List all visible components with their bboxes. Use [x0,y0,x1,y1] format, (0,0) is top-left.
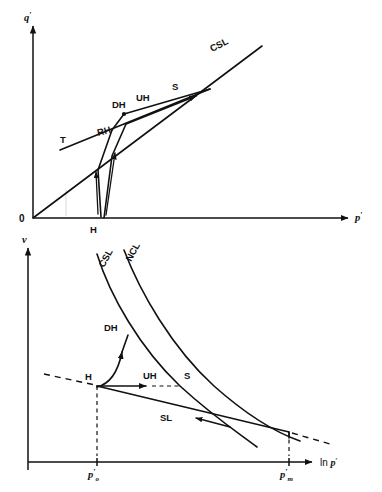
top-origin-label: 0 [19,213,25,224]
bottom-drained-path [97,352,122,387]
bottom-label-UH: UH [143,370,157,381]
bottom-y-axis-label: v [22,234,27,245]
figure-root: q′ p′ 0 T RH DH [0,0,382,492]
top-label-UH: UH [136,92,150,103]
bottom-label-SL: SL [160,412,172,423]
soil-mechanics-figure: q′ p′ 0 T RH DH [0,0,382,492]
top-y-axis-label: q′ [24,11,32,23]
bottom-x-axis-label: ln p′ [320,456,338,468]
top-x-axis-label: p′ [354,211,363,223]
bottom-drained-path-tail [122,335,128,352]
bottom-label-CSL: CSL [96,247,115,269]
top-drained-peak-link [112,114,124,130]
bottom-label-H: H [85,371,92,382]
bottom-swelling-line [97,386,289,432]
bottom-label-NCL: NCL [123,240,142,263]
bottom-label-DH: DH [104,322,118,333]
top-label-H: H [90,224,97,235]
bottom-label-S: S [184,370,190,381]
top-csl-line [33,46,262,218]
top-drained-arrow [96,172,98,214]
bottom-xtick-label-pm: p′m [279,468,294,483]
bottom-panel: v ln p′ p′o p′m [22,234,338,483]
top-label-T: T [60,134,66,145]
bottom-swelling-ext-right [292,433,330,444]
top-label-CSL: CSL [208,35,230,54]
bottom-xtick-label-po: p′o [87,468,100,483]
top-panel: q′ p′ 0 T RH DH [19,11,363,235]
top-label-DH: DH [112,99,126,110]
top-label-S: S [172,81,178,92]
